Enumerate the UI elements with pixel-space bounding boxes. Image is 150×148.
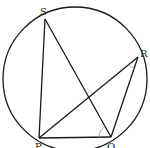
label-R: R <box>140 48 148 59</box>
angle-mark-Q-icon <box>99 127 105 138</box>
segment-SP <box>39 19 45 138</box>
angle-mark-R-icon <box>129 65 135 69</box>
label-P: P <box>35 141 42 148</box>
segment-RQ <box>111 57 138 137</box>
label-S: S <box>40 6 47 17</box>
label-Q: Q <box>107 141 115 148</box>
circumcircle <box>3 7 147 148</box>
cyclic-quadrilateral-diagram: S R P Q <box>0 0 150 148</box>
segment-PR <box>39 57 138 138</box>
segment-PQ <box>39 137 111 138</box>
segment-SQ <box>45 19 111 137</box>
